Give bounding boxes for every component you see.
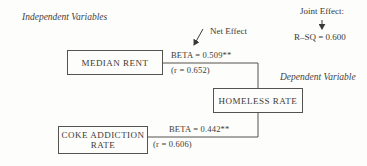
coke-addiction-box-label-line2: RATE <box>91 140 116 150</box>
median-rent-box-label: MEDIAN RENT <box>81 58 148 68</box>
r-squared-value: R–SQ = 0.600 <box>294 33 346 43</box>
homeless-rate-box-label: HOMELESS RATE <box>219 96 298 106</box>
path-diagram: Independent Variables Dependent Variable… <box>0 0 367 166</box>
independent-variables-label: Independent Variables <box>22 12 107 22</box>
coke-addiction-box-label-line1: COKE ADDICTION <box>61 130 144 140</box>
coke-addiction-box: COKE ADDICTION RATE <box>58 126 148 154</box>
rent-beta-value: BETA = 0.509** <box>171 51 232 60</box>
joint-effect-label: Joint Effect: <box>300 7 344 17</box>
median-rent-box: MEDIAN RENT <box>67 50 163 75</box>
net-effect-label: Net Effect <box>210 27 247 37</box>
coke-beta-value: BETA = 0.442** <box>169 125 230 134</box>
net-effect-arrow <box>194 29 203 45</box>
rent-correlation-value: (r = 0.652) <box>171 66 210 75</box>
dependent-variable-label: Dependent Variable <box>280 72 356 82</box>
coke-correlation-value: (r = 0.606) <box>153 140 192 149</box>
homeless-rate-box: HOMELESS RATE <box>213 88 303 113</box>
